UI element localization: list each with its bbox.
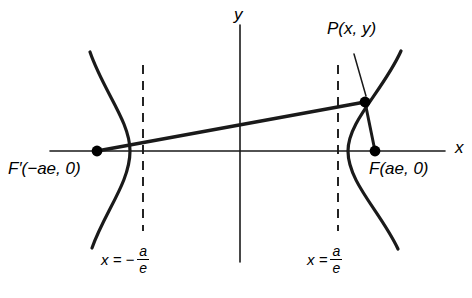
point-p-dot bbox=[360, 97, 371, 108]
x-axis-label: x bbox=[455, 139, 464, 156]
right-directrix-label: x = a e bbox=[307, 244, 342, 275]
hyperbola-curves-group bbox=[90, 51, 401, 249]
left-directrix-label-lhs: x = − bbox=[101, 252, 134, 267]
hyperbola-figure: x y P(x, y) F′(−ae, 0) F(ae, 0) x = − a … bbox=[0, 0, 472, 298]
right-directrix-fraction: a e bbox=[330, 244, 342, 275]
focal-chord-left bbox=[97, 102, 365, 151]
right-focus-dot bbox=[370, 146, 381, 157]
right-focus-label: F(ae, 0) bbox=[369, 160, 429, 177]
p-label-leader bbox=[354, 54, 366, 96]
right-directrix-denominator: e bbox=[330, 260, 342, 275]
left-directrix-numerator: a bbox=[137, 244, 149, 259]
y-axis-label: y bbox=[234, 6, 243, 23]
left-directrix-fraction: a e bbox=[137, 244, 149, 275]
left-focus-dot bbox=[92, 146, 103, 157]
left-directrix-label: x = − a e bbox=[101, 244, 149, 275]
figure-canvas bbox=[0, 0, 472, 298]
point-p-label: P(x, y) bbox=[327, 20, 376, 37]
left-focus-label: F′(−ae, 0) bbox=[8, 160, 81, 177]
left-directrix-denominator: e bbox=[137, 260, 149, 275]
right-directrix-numerator: a bbox=[330, 244, 342, 259]
focal-segments-group bbox=[97, 102, 375, 151]
right-directrix-label-lhs: x = bbox=[307, 252, 327, 267]
focal-radius-right bbox=[365, 102, 375, 151]
